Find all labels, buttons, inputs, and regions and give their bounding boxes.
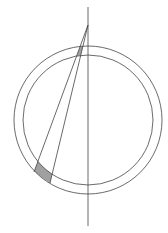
wedge-line-left [34,25,88,172]
annulus-wedge-diagram [0,0,168,233]
wedge-ring-intersection-shading [34,25,88,183]
